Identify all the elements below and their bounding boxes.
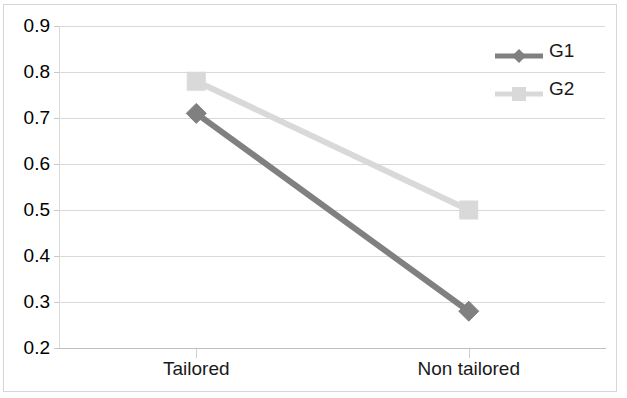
y-tick-label: 0.7: [0, 107, 50, 129]
y-tick-label-text: 0.8: [24, 61, 50, 82]
gridline: [60, 256, 605, 257]
x-axis-line: [59, 348, 606, 349]
chart-legend: G1G2: [495, 38, 595, 114]
y-tick-label-text: 0.2: [24, 337, 50, 358]
y-tick-label-text: 0.5: [24, 199, 50, 220]
x-tick-label: Non tailored: [418, 358, 520, 380]
x-tick-mark: [469, 349, 470, 358]
y-axis-line: [59, 26, 60, 349]
x-tick-mark: [196, 349, 197, 358]
y-tick-label: 0.4: [0, 245, 50, 267]
y-tick-label: 0.9: [0, 15, 50, 37]
legend-label-g1: G1: [549, 40, 574, 62]
y-tick-label: 0.6: [0, 153, 50, 175]
chart-figure: 0.90.80.70.60.50.40.30.2 TailoredNon tai…: [0, 0, 627, 398]
legend-item-g2[interactable]: G2: [495, 76, 595, 114]
y-tick-label-text: 0.6: [24, 153, 50, 174]
gridline: [60, 118, 605, 119]
y-tick-label: 0.2: [0, 337, 50, 359]
gridline: [60, 164, 605, 165]
legend-item-g1[interactable]: G1: [495, 38, 595, 76]
y-tick-label-text: 0.9: [24, 15, 50, 36]
gridline: [60, 26, 605, 27]
square-marker-icon: [495, 87, 543, 101]
y-tick-label: 0.8: [0, 61, 50, 83]
legend-label-g2: G2: [549, 78, 574, 100]
y-tick-label-text: 0.7: [24, 107, 50, 128]
gridline: [60, 302, 605, 303]
y-tick-label: 0.5: [0, 199, 50, 221]
y-tick-label: 0.3: [0, 291, 50, 313]
diamond-marker-icon: [495, 49, 543, 63]
gridline: [60, 210, 605, 211]
x-tick-label: Tailored: [163, 358, 230, 380]
y-tick-label-text: 0.4: [24, 245, 50, 266]
y-tick-label-text: 0.3: [24, 291, 50, 312]
